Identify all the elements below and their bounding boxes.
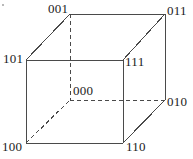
edge-layer [26, 14, 165, 143]
vertex-label-101: 101 [3, 52, 23, 65]
edge-110-010 [123, 100, 165, 143]
vertex-label-011: 011 [167, 4, 187, 17]
edge-100-000 [26, 100, 70, 143]
vertex-label-000: 000 [73, 84, 93, 97]
vertex-label-110: 110 [126, 140, 146, 153]
vertex-label-001: 001 [48, 2, 68, 15]
vertex-label-111: 111 [125, 55, 144, 68]
vertex-label-010: 010 [167, 95, 187, 108]
cube-diagram: 001011101111000010100110 [0, 0, 193, 159]
cube-wireframe [0, 0, 193, 159]
vertex-label-100: 100 [2, 140, 22, 153]
edge-101-001 [26, 14, 70, 60]
